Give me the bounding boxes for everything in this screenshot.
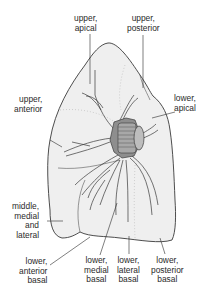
- label-lower-posterior-basal: lower, posterior basal: [151, 256, 184, 285]
- label-lower-medial-basal: lower, medial basal: [84, 256, 109, 285]
- label-upper-posterior: upper, posterior: [127, 14, 160, 33]
- label-upper-apical: upper, apical: [74, 14, 97, 33]
- label-lower-lateral-basal: lower, lateral basal: [117, 256, 140, 285]
- lung-diagram: [0, 0, 210, 296]
- label-upper-anterior: upper, anterior: [14, 95, 42, 114]
- label-lower-anterior-basal: lower, anterior basal: [19, 257, 47, 286]
- label-middle-medial-lateral: middle, medial and lateral: [12, 202, 39, 240]
- label-lower-apical: lower, apical: [174, 94, 196, 113]
